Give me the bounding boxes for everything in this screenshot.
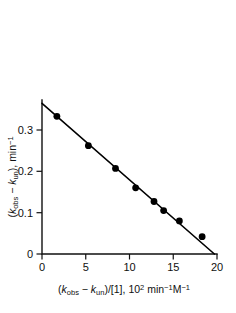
- data-point: [199, 233, 206, 240]
- y-title-close: ), min: [6, 145, 18, 171]
- axes: [42, 100, 217, 254]
- data-points-group: [53, 113, 205, 240]
- data-point: [112, 165, 119, 172]
- scatter-plot-svg: 0 0.1 0.2 0.3 0 5 10 15 20 (kobs − ku: [0, 0, 236, 313]
- x-title-unit-m: M: [173, 283, 182, 295]
- x-axis-ticks: [42, 254, 217, 260]
- axis-lines: [42, 100, 217, 254]
- x-tick-label-3: 15: [167, 261, 179, 273]
- x-title-k-un-sub: un: [96, 288, 104, 297]
- y-title-k-obs-sub: obs: [11, 197, 20, 209]
- y-title-minus: −: [6, 185, 18, 197]
- data-point: [176, 218, 183, 225]
- chart-figure: 0 0.1 0.2 0.3 0 5 10 15 20 (kobs − ku: [0, 0, 236, 313]
- data-point: [132, 184, 139, 191]
- data-point: [151, 198, 158, 205]
- data-point: [160, 207, 167, 214]
- x-tick-label-0: 0: [39, 261, 45, 273]
- regression-fit-line: [42, 103, 214, 254]
- y-axis-ticks: [37, 130, 43, 254]
- y-tick-label-3: 0.3: [18, 124, 33, 136]
- data-point: [53, 113, 60, 120]
- data-point: [85, 142, 92, 149]
- x-axis-title: (kobs − kun)/[1], 102 min−1M−1: [58, 283, 190, 297]
- x-title-k-obs-sub: obs: [67, 288, 79, 297]
- x-title-unit-min: min: [144, 283, 164, 295]
- x-title-exp-m1: −1: [181, 283, 190, 292]
- x-title-close: )/[1], 10: [104, 283, 140, 295]
- y-title-exponent: −1: [6, 136, 15, 145]
- y-axis-title: (kobs − kun), min−1: [6, 136, 20, 217]
- svg-text:(kobs − kun)/[1], 102 min−1M−1: (kobs − kun)/[1], 102 min−1M−1: [58, 283, 190, 297]
- svg-text:(kobs − kun), min−1: (kobs − kun), min−1: [6, 136, 20, 217]
- y-axis-tick-labels: 0 0.1 0.2 0.3: [18, 124, 33, 260]
- x-title-exp-min1: −1: [164, 283, 173, 292]
- x-tick-label-4: 20: [211, 261, 223, 273]
- x-tick-label-1: 5: [83, 261, 89, 273]
- x-axis-tick-labels: 0 5 10 15 20: [39, 261, 223, 273]
- y-tick-label-0: 0: [27, 248, 33, 260]
- y-title-k-un-sub: un: [11, 171, 20, 179]
- x-title-minus: −: [79, 283, 91, 295]
- x-tick-label-2: 10: [123, 261, 135, 273]
